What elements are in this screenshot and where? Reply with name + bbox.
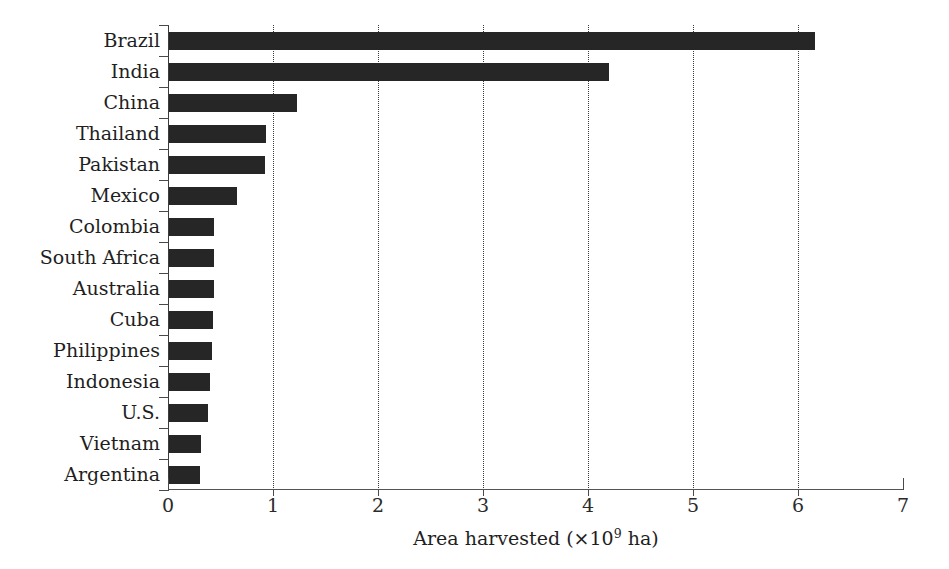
gridline (798, 25, 799, 490)
bar-chart: BrazilIndiaChinaThailandPakistanMexicoCo… (0, 0, 949, 569)
gridline (483, 25, 484, 490)
x-axis-tick (168, 478, 169, 490)
y-axis-tick (159, 25, 169, 26)
x-axis-title-exponent: 9 (614, 526, 622, 541)
y-axis-tick-label: Cuba (8, 309, 168, 329)
bar (168, 125, 266, 143)
y-axis-tick-label: Colombia (8, 216, 168, 236)
y-axis-tick-label: Argentina (8, 464, 168, 484)
x-axis-tick-label: 3 (477, 494, 489, 516)
y-axis-tick (159, 397, 169, 398)
y-axis-tick (159, 149, 169, 150)
y-axis-tick-label: Philippines (8, 340, 168, 360)
bar (168, 63, 609, 81)
gridline (588, 25, 589, 490)
y-axis-tick (159, 118, 169, 119)
bar (168, 373, 210, 391)
y-axis-category-labels: BrazilIndiaChinaThailandPakistanMexicoCo… (0, 0, 168, 569)
y-axis-tick-label: Thailand (8, 123, 168, 143)
y-axis-tick (159, 273, 169, 274)
y-axis-tick-label: Vietnam (8, 433, 168, 453)
y-axis-tick (159, 180, 169, 181)
bar (168, 311, 213, 329)
gridline (378, 25, 379, 490)
y-axis-tick (159, 56, 169, 57)
y-axis-tick (159, 428, 169, 429)
bar (168, 404, 208, 422)
x-axis-tick-label: 7 (897, 494, 909, 516)
y-axis-tick-label: China (8, 92, 168, 112)
x-axis-tick-label: 2 (372, 494, 384, 516)
y-axis-tick (159, 335, 169, 336)
y-axis-tick (159, 490, 169, 491)
y-axis-tick-label: Mexico (8, 185, 168, 205)
x-axis-line (168, 489, 904, 490)
y-axis-tick-label: South Africa (8, 247, 168, 267)
y-axis-tick-label: Brazil (8, 30, 168, 50)
y-axis-tick (159, 211, 169, 212)
x-axis-tick-label: 0 (162, 494, 174, 516)
y-axis-tick (159, 366, 169, 367)
y-axis-tick (159, 242, 169, 243)
bar (168, 466, 200, 484)
y-axis-line (168, 25, 169, 490)
x-axis-title-prefix: Area harvested (×10 (413, 527, 613, 549)
bar (168, 249, 214, 267)
y-axis-tick (159, 459, 169, 460)
x-axis-tick-label: 6 (792, 494, 804, 516)
bar (168, 280, 214, 298)
y-axis-tick-label: Australia (8, 278, 168, 298)
bar (168, 218, 214, 236)
y-axis-tick (159, 304, 169, 305)
bar (168, 32, 815, 50)
y-axis-tick (159, 87, 169, 88)
x-axis-tick-label: 1 (267, 494, 279, 516)
y-axis-tick-label: Indonesia (8, 371, 168, 391)
bar (168, 156, 265, 174)
plot-area (168, 25, 903, 490)
bar (168, 435, 201, 453)
x-axis-tick-label: 4 (582, 494, 594, 516)
gridline (693, 25, 694, 490)
x-axis-title: Area harvested (×109 ha) (168, 526, 904, 550)
y-axis-tick-label: India (8, 61, 168, 81)
bar (168, 94, 297, 112)
x-axis-tick-label: 5 (687, 494, 699, 516)
bar (168, 187, 237, 205)
y-axis-tick-label: Pakistan (8, 154, 168, 174)
x-axis-title-suffix: ha) (622, 527, 659, 549)
bar (168, 342, 212, 360)
y-axis-tick-label: U.S. (8, 402, 168, 422)
x-axis-tick (903, 478, 904, 490)
